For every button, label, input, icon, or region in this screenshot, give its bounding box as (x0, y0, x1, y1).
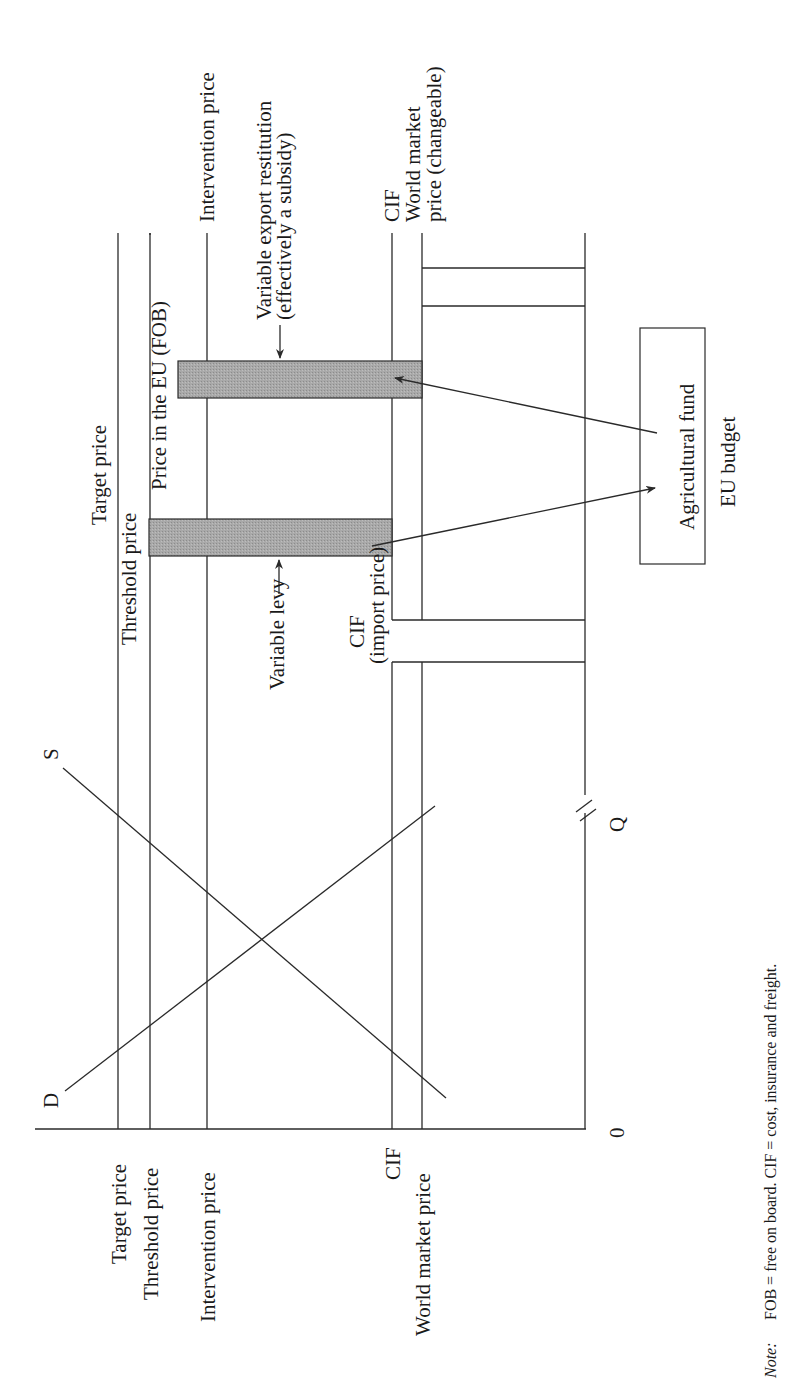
top-threshold-price-label: Threshold price (117, 513, 141, 645)
origin-label: 0 (605, 1128, 629, 1139)
import-section: Variable levy CIF (import price) (149, 233, 585, 690)
top-price-in-eu-label: Price in the EU (FOB) (147, 301, 171, 490)
axis-threshold-price-label: Threshold price (139, 1168, 163, 1300)
axis-target-price-label: Target price (107, 1164, 131, 1264)
top-target-price-label: Target price (87, 425, 111, 525)
axis-cif-label: CIF (381, 1147, 405, 1180)
curves: D S (39, 748, 446, 1108)
export-restitution-bar (178, 361, 422, 398)
variable-levy-label: Variable levy (265, 578, 289, 690)
top-intervention-price-label: Intervention price (195, 72, 219, 222)
export-restitution-label-2: (effectively a subsidy) (272, 133, 296, 320)
budget-box-group: Agricultural fund EU budget (372, 328, 740, 564)
agricultural-fund-label: Agricultural fund (675, 383, 699, 530)
note-prefix: Note: (762, 1342, 779, 1379)
axis-world-market-price-label: World market price (411, 1173, 435, 1336)
axis-break-mark-1 (576, 800, 592, 812)
fund-to-restitution-arrow (395, 378, 657, 433)
cap-price-mechanism-diagram: 0 Q D S Variable levy CIF (import price) (0, 0, 790, 1384)
quantity-label: Q (605, 817, 629, 832)
demand-curve (65, 806, 435, 1091)
cif-import-price-label: (import price) (365, 547, 389, 664)
price-axis-labels: Target price Threshold price Interventio… (107, 1147, 435, 1336)
axis-intervention-price-label: Intervention price (196, 1172, 220, 1322)
top-world-market-label-2: price (changeable) (422, 66, 446, 222)
figure-note: Note: FOB = free on board. CIF = cost, i… (762, 964, 780, 1379)
levy-to-fund-arrow (372, 488, 655, 546)
axis-break-mark-2 (580, 809, 596, 821)
demand-label: D (39, 1093, 63, 1108)
supply-label: S (39, 748, 63, 760)
note-text: FOB = free on board. CIF = cost, insuran… (762, 964, 780, 1320)
eu-budget-label: EU budget (716, 416, 740, 507)
variable-levy-bar (149, 519, 392, 556)
